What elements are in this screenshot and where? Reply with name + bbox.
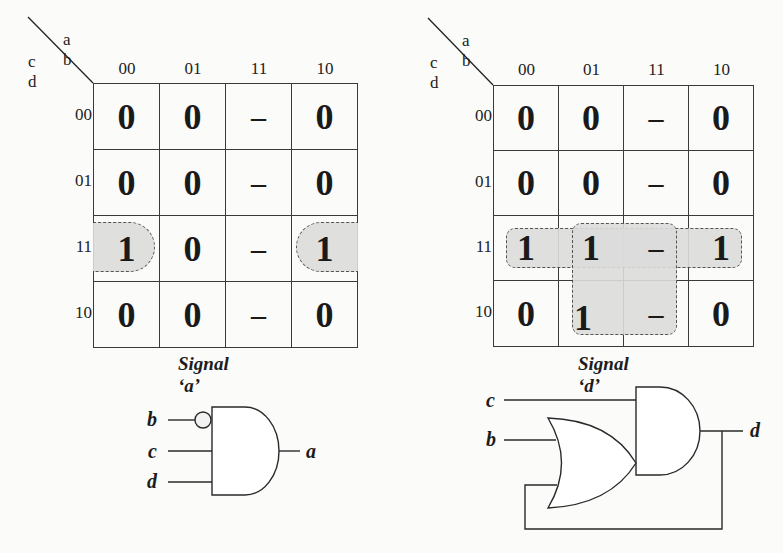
or-gate-icon: [548, 418, 636, 508]
and-gate-icon: [212, 407, 279, 495]
input-c-label: c: [148, 440, 157, 463]
input-b-label: b: [486, 428, 496, 451]
input-c-label: c: [486, 389, 495, 412]
input-d-label: d: [147, 470, 157, 493]
left-circuit: [168, 407, 300, 495]
output-a-label: a: [306, 440, 316, 463]
and-gate-icon: [636, 387, 700, 475]
inversion-bubble-icon: [195, 412, 211, 428]
input-b-label: b: [147, 408, 157, 431]
output-d-label: d: [750, 419, 760, 442]
right-circuit: [504, 387, 743, 529]
